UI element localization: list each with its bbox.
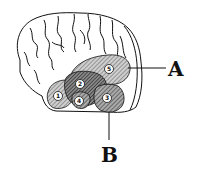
region-marker-2: 2 [76, 80, 85, 89]
brain-diagram: 1 2 3 4 5 A B [0, 0, 197, 174]
region-number-2: 2 [78, 80, 82, 87]
region-marker-1: 1 [54, 92, 63, 101]
region-marker-3: 3 [103, 94, 112, 103]
label-a: A [167, 57, 184, 81]
region-number-1: 1 [56, 92, 60, 99]
region-marker-5: 5 [105, 65, 114, 74]
region-number-5: 5 [107, 65, 111, 72]
region-number-4: 4 [77, 97, 81, 104]
region-number-3: 3 [105, 94, 109, 101]
region-marker-4: 4 [75, 97, 84, 106]
label-b: B [101, 143, 118, 167]
